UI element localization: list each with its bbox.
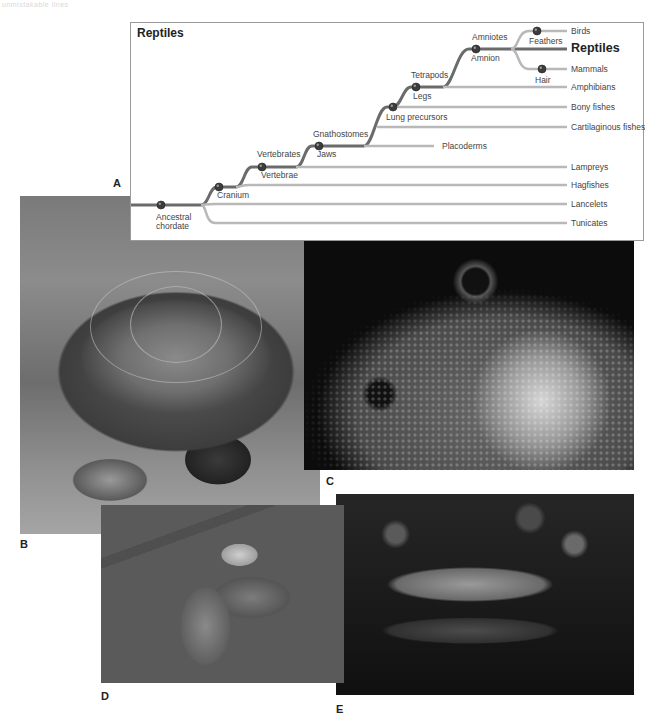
trait-label: Legs <box>413 91 431 101</box>
trait-label: chordate <box>156 221 189 231</box>
node-highlight <box>414 85 416 87</box>
tip-label-reptiles: Reptiles <box>571 41 620 55</box>
alligator-photo <box>336 494 634 695</box>
node-marker <box>472 45 480 53</box>
shell-pattern <box>130 286 222 363</box>
faint-header-text: unmistakable lines <box>2 1 69 8</box>
node-marker <box>157 201 165 209</box>
trait-label: Hair <box>535 75 551 85</box>
node-highlight <box>535 29 537 31</box>
node-marker <box>538 65 546 73</box>
tip-label-lampreys: Lampreys <box>571 162 608 172</box>
tip-label-hagfishes: Hagfishes <box>571 180 609 190</box>
side-branch <box>201 204 567 205</box>
node-marker <box>533 27 541 35</box>
panel-label-b: B <box>20 538 28 550</box>
trait-label: Lung precursors <box>386 112 447 122</box>
iguana-photo <box>304 240 634 470</box>
tip-label-tunicates: Tunicates <box>571 218 608 228</box>
snake-photo <box>101 505 344 683</box>
panel-label-d: D <box>101 690 109 702</box>
trait-label: Vertebrae <box>261 170 298 180</box>
side-branch <box>201 205 567 223</box>
panel-label-c: C <box>326 475 334 487</box>
node-highlight <box>317 144 319 146</box>
node-highlight <box>474 47 476 49</box>
node-marker <box>389 103 397 111</box>
trait-label: Cranium <box>217 190 249 200</box>
node-highlight <box>540 67 542 69</box>
cladogram-svg: BirdsReptilesMammalsAmphibiansBony fishe… <box>131 23 645 242</box>
tip-label-cartilaginous-fishes: Cartilaginous fishes <box>571 122 645 132</box>
clade-label: Vertebrates <box>257 149 300 159</box>
side-branch <box>236 185 567 187</box>
clade-label: Gnathostomes <box>313 129 368 139</box>
clade-label: Tetrapods <box>411 70 448 80</box>
panel-label-a: A <box>113 177 121 189</box>
trait-label: Amnion <box>471 53 500 63</box>
tip-label-mammals: Mammals <box>571 64 608 74</box>
node-highlight <box>217 185 219 187</box>
clade-label: Amniotes <box>472 32 507 42</box>
scale-texture <box>304 240 634 470</box>
trait-label: Feathers <box>529 36 563 46</box>
node-highlight <box>159 203 161 205</box>
node-highlight <box>391 105 393 107</box>
trait-label: Jaws <box>317 149 336 159</box>
tip-label-placoderms: Placoderms <box>442 141 487 151</box>
tip-label-amphibians: Amphibians <box>571 82 615 92</box>
tip-label-lancelets: Lancelets <box>571 199 607 209</box>
tip-label-bony-fishes: Bony fishes <box>571 102 615 112</box>
node-marker <box>412 83 420 91</box>
cladogram-panel: Reptiles BirdsReptilesMammalsAmphibiansB… <box>130 22 644 241</box>
panel-label-e: E <box>336 703 343 715</box>
turtle-photo <box>20 196 320 534</box>
tip-label-birds: Birds <box>571 26 590 36</box>
node-highlight <box>260 165 262 167</box>
